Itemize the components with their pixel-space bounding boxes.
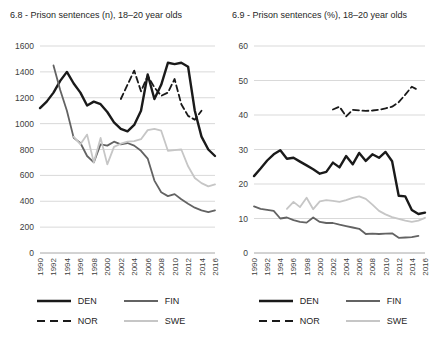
legend-item-swe: SWE [346,316,408,326]
legend-item-nor: NOR [259,316,320,326]
y-tick-label: 1200 [15,93,34,103]
x-tick-label: 2016 [211,257,220,275]
y-tick-label: 400 [20,196,34,206]
legend-label-fin: FIN [387,296,402,306]
x-tick-label: 2016 [421,257,430,275]
x-tick-label: 2010 [171,257,180,275]
x-tick-label: 1998 [303,257,312,275]
x-tick-label: 2008 [157,257,166,275]
legend-swatch-swe-line [124,317,158,325]
legend-swatch-nor-line [259,317,293,325]
legend-6-8: DENFINNORSWE [0,296,222,326]
x-tick-label: 2000 [316,257,325,275]
legend-label-fin: FIN [165,296,180,306]
legend-label-swe: SWE [387,316,408,326]
y-tick-label: 1000 [15,119,34,129]
legend-swatch-den-line [37,297,71,305]
x-tick-label: 2004 [130,257,139,275]
legend-6-9: DENFINNORSWE [222,296,444,326]
legend-label-nor: NOR [78,316,98,326]
legend-item-den: DEN [37,296,98,306]
line-chart-6-8: 0200400600800100012001400160019901992199… [0,0,222,290]
series-den-line [254,150,425,214]
legend-swatch-den-line [259,297,293,305]
x-tick-label: 2002 [329,257,338,275]
y-tick-label: 50 [239,76,249,86]
x-tick-label: 1990 [250,257,259,275]
x-tick-label: 2000 [103,257,112,275]
x-tick-label: 1990 [36,257,45,275]
x-tick-label: 2010 [382,257,391,275]
y-tick-label: 0 [29,248,34,258]
x-tick-label: 2014 [408,257,417,275]
x-tick-label: 2004 [342,257,351,275]
legend-item-swe: SWE [124,316,186,326]
y-tick-label: 30 [239,145,249,155]
legend-item-den: DEN [259,296,320,306]
x-tick-label: 2006 [144,257,153,275]
x-tick-label: 2014 [198,257,207,275]
y-tick-label: 20 [239,179,249,189]
nordic-prison-sentences-figure: 6.8 - Prison sentences (n), 18–20 year o… [0,0,444,343]
x-tick-label: 2012 [395,257,404,275]
line-chart-6-9: 0102030405060199019921994199619982000200… [222,0,444,290]
x-tick-label: 1998 [90,257,99,275]
x-tick-label: 1992 [49,257,58,275]
chart-panel-6-8: 6.8 - Prison sentences (n), 18–20 year o… [0,0,222,343]
y-tick-label: 1400 [15,67,34,77]
y-tick-label: 60 [239,41,249,51]
legend-label-den: DEN [300,296,319,306]
legend-label-den: DEN [78,296,97,306]
x-tick-label: 1994 [276,257,285,275]
x-tick-label: 1994 [63,257,72,275]
y-tick-label: 600 [20,170,34,180]
series-swe-line [74,129,215,187]
x-tick-label: 2012 [184,257,193,275]
x-tick-label: 2008 [368,257,377,275]
legend-swatch-fin-line [124,297,158,305]
legend-swatch-fin-line [346,297,380,305]
series-nor-line [333,87,419,117]
series-fin-line [254,206,418,237]
y-tick-label: 0 [243,248,248,258]
y-tick-label: 10 [239,214,249,224]
x-tick-label: 1996 [76,257,85,275]
x-tick-label: 2002 [117,257,126,275]
y-tick-label: 1600 [15,41,34,51]
legend-swatch-nor-line [37,317,71,325]
y-tick-label: 40 [239,110,249,120]
legend-item-nor: NOR [37,316,98,326]
chart-panel-6-9: 6.9 - Prison sentences (%), 18–20 year o… [222,0,444,343]
y-tick-label: 800 [20,145,34,155]
legend-item-fin: FIN [346,296,408,306]
legend-item-fin: FIN [124,296,186,306]
legend-label-nor: NOR [300,316,320,326]
legend-swatch-swe-line [346,317,380,325]
legend-label-swe: SWE [165,316,186,326]
x-tick-label: 1996 [289,257,298,275]
x-tick-label: 1992 [263,257,272,275]
x-tick-label: 2006 [355,257,364,275]
y-tick-label: 200 [20,222,34,232]
